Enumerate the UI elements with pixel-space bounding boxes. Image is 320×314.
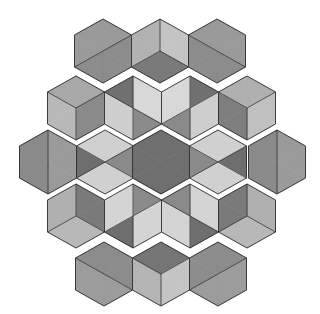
row-1 [75,19,246,83]
hexagon-mosaic [0,0,320,314]
row-3 [20,130,306,194]
row-5 [76,242,247,306]
